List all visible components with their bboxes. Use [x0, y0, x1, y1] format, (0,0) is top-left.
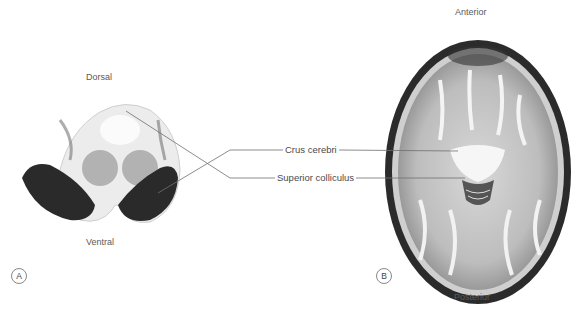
panel-b-marker: B [376, 268, 392, 284]
figure-canvas [0, 0, 579, 315]
superior-colliculus-label: Superior colliculus [275, 172, 356, 183]
ventral-label: Ventral [86, 237, 114, 247]
axial-mri-image [385, 40, 571, 304]
panel-a-marker: A [11, 268, 27, 284]
midbrain-section-image [22, 104, 180, 222]
dorsal-label: Dorsal [86, 72, 112, 82]
posterior-label: Posterior [454, 292, 490, 302]
crus-cerebri-label: Crus cerebri [283, 144, 339, 155]
anterior-label: Anterior [455, 7, 487, 17]
